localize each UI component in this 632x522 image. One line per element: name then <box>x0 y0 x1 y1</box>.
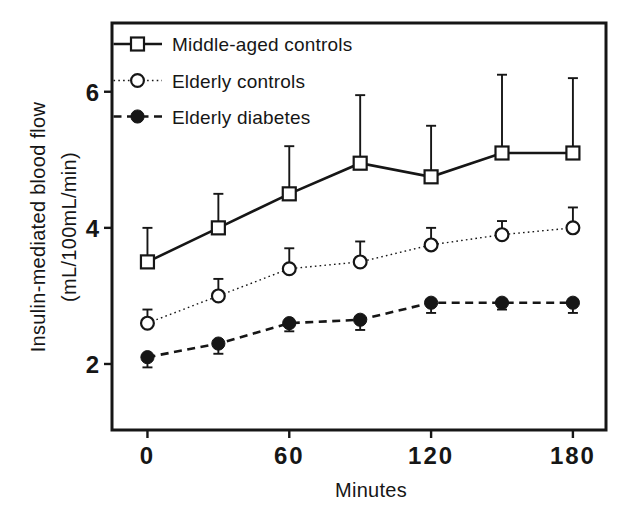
open-square-marker <box>283 187 296 200</box>
open-circle-marker <box>141 317 154 330</box>
open-square-marker <box>566 146 579 159</box>
x-axis-title: Minutes <box>335 479 407 501</box>
x-tick-label: 0 <box>140 442 155 469</box>
filled-circle-marker <box>566 296 579 309</box>
y-tick-label: 6 <box>86 79 99 106</box>
filled-circle-marker <box>354 313 367 326</box>
filled-circle-marker <box>424 296 437 309</box>
open-circle-marker <box>283 262 296 275</box>
open-square-marker <box>496 146 509 159</box>
open-circle-marker <box>496 228 509 241</box>
open-square-marker <box>425 170 438 183</box>
chart-canvas: 246060120180MinutesInsulin-mediated bloo… <box>0 0 632 522</box>
x-tick-label: 60 <box>274 442 305 469</box>
insulin-blood-flow-figure: 246060120180MinutesInsulin-mediated bloo… <box>0 0 632 522</box>
open-square-marker <box>141 255 154 268</box>
y-axis-title: Insulin-mediated blood flow <box>27 102 49 353</box>
y-tick-label: 4 <box>86 215 100 242</box>
filled-circle-marker <box>283 317 296 330</box>
open-square-marker <box>131 38 144 51</box>
open-circle-marker <box>131 74 144 87</box>
legend-label-middle-aged-controls: Middle-aged controls <box>172 34 352 55</box>
open-square-marker <box>354 157 367 170</box>
y-axis-units: (mL/100mL/min) <box>58 152 80 302</box>
filled-circle-marker <box>495 296 508 309</box>
open-circle-marker <box>567 221 580 234</box>
open-square-marker <box>212 221 225 234</box>
filled-circle-marker <box>141 351 154 364</box>
x-tick-label: 180 <box>550 442 596 469</box>
open-circle-marker <box>354 255 367 268</box>
legend-label-elderly-diabetes: Elderly diabetes <box>172 107 310 128</box>
open-circle-marker <box>425 238 438 251</box>
legend-label-elderly-controls: Elderly controls <box>172 71 305 92</box>
filled-circle-marker <box>131 110 144 123</box>
y-tick-label: 2 <box>86 351 99 378</box>
x-tick-label: 120 <box>408 442 454 469</box>
open-circle-marker <box>212 290 225 303</box>
filled-circle-marker <box>212 337 225 350</box>
